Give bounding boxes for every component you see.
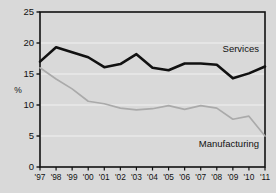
x-tick-label-0: '97 bbox=[35, 172, 46, 182]
x-axis-tick-labels: '97'98'99'00'01'02'03'04'05'06'07'08'09'… bbox=[35, 172, 271, 182]
x-tick-label-3: '00 bbox=[83, 172, 94, 182]
y-tick-label-5: 5 bbox=[29, 130, 34, 141]
series-label-manufacturing: Manufacturing bbox=[199, 138, 259, 149]
chart-container: 0510152025 '97'98'99'00'01'02'03'04'05'0… bbox=[0, 0, 276, 193]
x-tick-label-2: '99 bbox=[67, 172, 78, 182]
x-tick-label-9: '06 bbox=[179, 172, 190, 182]
x-tick-label-6: '03 bbox=[131, 172, 142, 182]
y-tick-label-15: 15 bbox=[23, 68, 34, 79]
y-axis-title: % bbox=[14, 85, 22, 95]
x-tick-label-12: '09 bbox=[227, 172, 238, 182]
series-label-services: Services bbox=[223, 43, 260, 54]
y-tick-label-25: 25 bbox=[23, 6, 34, 17]
x-tick-label-10: '07 bbox=[195, 172, 206, 182]
x-tick-label-5: '02 bbox=[115, 172, 126, 182]
y-tick-label-0: 0 bbox=[29, 161, 34, 172]
chart-background bbox=[0, 0, 276, 193]
x-tick-label-14: '11 bbox=[260, 172, 271, 182]
x-tick-label-1: '98 bbox=[51, 172, 62, 182]
y-tick-label-20: 20 bbox=[23, 37, 34, 48]
x-tick-label-13: '10 bbox=[244, 172, 255, 182]
line-chart: 0510152025 '97'98'99'00'01'02'03'04'05'0… bbox=[0, 0, 276, 193]
x-tick-label-8: '05 bbox=[163, 172, 174, 182]
y-tick-label-10: 10 bbox=[23, 99, 34, 110]
x-tick-label-4: '01 bbox=[99, 172, 110, 182]
x-tick-label-11: '08 bbox=[211, 172, 222, 182]
x-tick-label-7: '04 bbox=[147, 172, 158, 182]
